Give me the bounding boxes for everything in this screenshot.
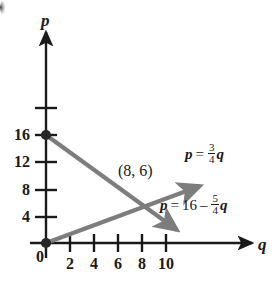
x-tick-label-6: 6 [110,256,126,272]
supply-eq-lhs: p [185,147,193,162]
origin-label: 0 [30,249,44,265]
intercept-dot-16 [41,130,51,140]
demand-eq-intercept: 16 [182,198,197,213]
demand-eq-minus: – [200,198,208,213]
y-axis [35,32,57,258]
demand-eq-denominator: 4 [211,204,219,216]
x-tick-label-2: 2 [62,256,78,272]
demand-eq-variable: q [220,198,228,213]
supply-eq-numerator: 3 [208,142,216,153]
y-tick-label-16: 16 [6,127,30,143]
demand-equation-label: p = 16 – 5 4 q [160,194,227,217]
supply-equation-label: p = 3 4 q [185,143,224,166]
supply-eq-equals: = [196,147,204,162]
demand-eq-lhs: p [160,198,168,213]
intersection-point-label: (8, 6) [118,163,153,179]
supply-eq-fraction: 3 4 [208,142,216,165]
y-tick-label-12: 12 [6,154,30,170]
supply-eq-variable: q [216,147,224,162]
demand-eq-fraction: 5 4 [211,193,219,216]
x-tick-label-10: 10 [155,256,177,272]
x-axis-label: q [258,236,267,253]
demand-line [46,135,177,230]
demand-eq-numerator: 5 [211,193,219,204]
x-tick-label-8: 8 [134,256,150,272]
origin-dot [41,238,51,248]
demand-eq-equals: = [171,198,179,213]
y-tick-label-4: 4 [6,209,30,225]
coordinate-plot [0,0,278,288]
y-axis-label: p [41,12,50,29]
x-tick-label-4: 4 [86,256,102,272]
supply-eq-denominator: 4 [208,153,216,165]
y-tick-label-8: 8 [6,182,30,198]
figure-container: p q 16 12 8 4 0 2 4 6 8 10 (8, 6) p = 3 … [0,0,278,288]
